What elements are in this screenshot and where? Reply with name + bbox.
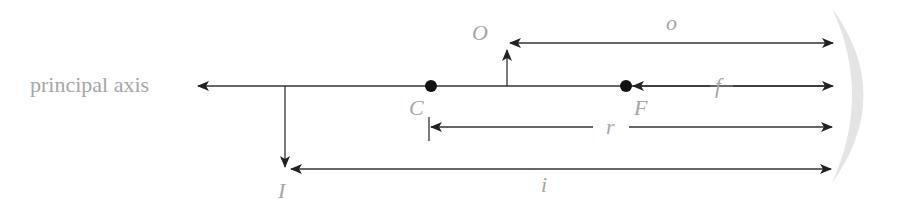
- radius-label: r: [606, 114, 615, 139]
- object-distance-label: o: [666, 10, 677, 35]
- image-distance-label: i: [541, 172, 547, 197]
- concave-mirror: [832, 8, 864, 183]
- object-label: O: [472, 20, 488, 45]
- mirror-diagram: principal axis C F O I o f r i: [0, 0, 900, 208]
- image-label: I: [277, 178, 287, 203]
- focal-point-label: F: [633, 95, 648, 120]
- principal-axis-label: principal axis: [30, 72, 149, 97]
- center-of-curvature-label: C: [409, 95, 424, 120]
- center-of-curvature-point: [425, 80, 437, 92]
- focal-point: [620, 80, 632, 92]
